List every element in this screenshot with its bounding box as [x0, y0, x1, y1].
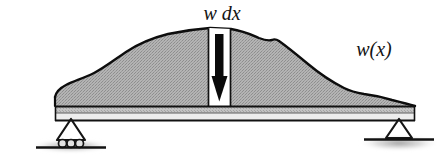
arrow-shaft — [215, 34, 224, 80]
diagram-canvas: w dx w(x) — [0, 0, 441, 155]
beam-load-diagram: w dx w(x) — [0, 0, 441, 155]
ground-shadows — [30, 135, 440, 153]
beam — [55, 106, 415, 121]
load-element-label: w dx — [203, 2, 240, 24]
load-function-label: w(x) — [356, 38, 392, 61]
roller-support-triangle — [57, 119, 85, 140]
